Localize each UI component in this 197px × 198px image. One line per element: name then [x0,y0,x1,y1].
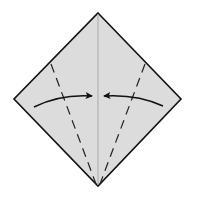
diagram-canvas [0,0,197,198]
origami-diagram: Kite base fold: fold both lower edges to… [0,0,197,198]
